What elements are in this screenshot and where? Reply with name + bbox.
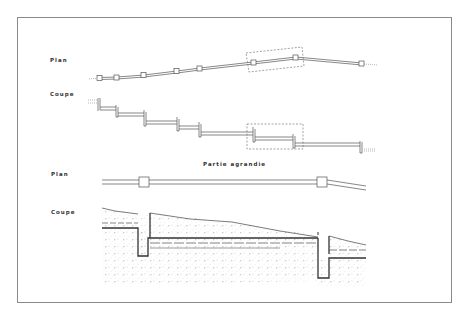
plan-top-route (89, 57, 378, 80)
plan-top-manholes (97, 55, 364, 81)
plan-bottom-manholes (139, 177, 327, 187)
drawing-canvas (0, 0, 468, 318)
coupe-top-profile (88, 98, 376, 153)
coupe-top-enlarge-box (247, 124, 303, 149)
